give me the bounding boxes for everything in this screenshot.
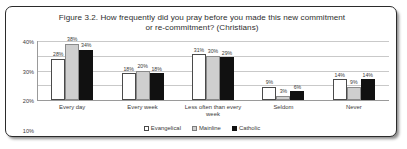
legend-swatch-icon [232,126,237,131]
bar-evangelical-2[interactable] [192,54,206,100]
legend-item-catholic[interactable]: Catholic [232,125,260,131]
legend-swatch-icon [192,126,197,131]
bar-catholic-1[interactable] [150,73,164,100]
bar-slot: 28% [51,41,65,100]
bar-slot: 18% [150,41,164,100]
figure-frame: Figure 3.2. How frequently did you pray … [5,6,397,137]
bar-group: 31%30%29% [178,41,248,100]
bar-value-label: 14% [363,72,373,78]
bar-slot: 9% [347,41,361,100]
bar-group: 18%20%18% [107,41,177,100]
x-axis-category-label: Less often than every week [178,104,248,119]
legend-item-evangelical[interactable]: Evangelical [144,125,181,131]
bar-value-label: 28% [53,51,63,57]
chart-legend: EvangelicalMainlineCatholic [6,125,397,131]
bar-mainline-3[interactable] [276,96,290,100]
gridline-0: 0% [37,100,389,101]
bar-slot: 14% [361,41,375,100]
bar-evangelical-4[interactable] [333,79,347,100]
bar-slot: 14% [333,41,347,100]
bar-group: 14%9%14% [319,41,389,100]
y-axis-tick-label: 20% [23,98,34,104]
bar-slot: 38% [65,41,79,100]
bar-slot: 30% [206,41,220,100]
legend-item-mainline[interactable]: Mainline [192,125,221,131]
chart-title-line-2: or re-commitment? (Christians) [24,23,380,33]
bar-value-label: 30% [208,48,218,54]
bar-value-label: 9% [350,79,358,85]
bar-catholic-4[interactable] [361,79,375,100]
bar-slot: 34% [79,41,93,100]
x-axis-category-label: Every day [37,104,107,111]
bar-slot: 3% [276,41,290,100]
bar-slot: 20% [136,41,150,100]
bar-group: 9%3%6% [248,41,318,100]
bar-catholic-0[interactable] [79,50,93,100]
bar-slot: 6% [290,41,304,100]
x-axis-category-label: Seldom [248,104,318,111]
bar-value-label: 29% [222,50,232,56]
bar-slot: 29% [220,41,234,100]
bar-catholic-3[interactable] [290,91,304,100]
bar-value-label: 20% [137,63,147,69]
bar-value-label: 9% [266,79,274,85]
bar-value-label: 31% [194,47,204,53]
bar-value-label: 18% [151,66,161,72]
bar-mainline-0[interactable] [65,44,79,100]
bar-catholic-2[interactable] [220,57,234,100]
bar-mainline-2[interactable] [206,56,220,100]
bar-value-label: 14% [335,72,345,78]
bar-value-label: 3% [280,88,288,94]
x-axis-category-label: Every week [107,104,177,111]
bar-mainline-4[interactable] [347,87,361,100]
x-axis-category-label: Never [319,104,389,111]
bar-value-label: 38% [67,36,77,42]
bar-group: 28%38%34% [37,41,107,100]
legend-label: Evangelical [151,125,181,131]
bar-slot: 31% [192,41,206,100]
chart-title: Figure 3.2. How frequently did you pray … [24,13,380,34]
bar-value-label: 18% [123,66,133,72]
bar-evangelical-1[interactable] [122,73,136,100]
bar-slot: 9% [262,41,276,100]
y-axis-tick-label: 40% [23,39,34,45]
legend-label: Catholic [239,125,260,131]
bar-slot: 18% [122,41,136,100]
bar-value-label: 6% [294,84,302,90]
bar-evangelical-0[interactable] [51,59,65,100]
bar-value-label: 34% [81,42,91,48]
legend-swatch-icon [144,126,149,131]
y-axis-tick-label: 30% [23,69,34,75]
legend-label: Mainline [199,125,221,131]
plot-area: 40%30%20%10%0%28%38%34%18%20%18%31%30%29… [37,41,389,100]
bar-mainline-1[interactable] [136,71,150,101]
chart-title-line-1: Figure 3.2. How frequently did you pray … [24,13,380,23]
bar-evangelical-3[interactable] [262,87,276,100]
